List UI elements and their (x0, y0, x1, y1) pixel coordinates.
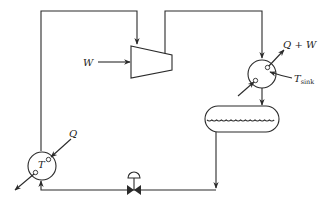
heat-in-arrow (51, 139, 71, 157)
refrigeration-cycle-diagram: W Q + W Tsink Q T (0, 0, 326, 204)
valve-body-left (127, 185, 134, 195)
coolant-in-port (253, 78, 257, 82)
compressor: W (83, 46, 172, 78)
expansion-valve (127, 172, 141, 195)
heat-out-port (265, 65, 269, 69)
heat-in-port (46, 157, 50, 161)
heat-out-arrow (267, 50, 284, 68)
valve-body-right (134, 185, 141, 195)
sink-temp-label: Tsink (294, 73, 314, 86)
heat-sink-out-arrow (15, 174, 34, 190)
evaporator: Q T (15, 128, 77, 190)
suction-line (41, 11, 137, 151)
drum-body (205, 106, 279, 132)
discharge-line (165, 11, 262, 58)
receiver-drum (205, 106, 279, 132)
work-label: W (83, 57, 94, 68)
heat-out-label: Q + W (283, 39, 317, 50)
valve-actuator (128, 172, 140, 178)
condenser: Q + W Tsink (238, 39, 317, 96)
piping (41, 11, 262, 190)
coolant-in-arrow (238, 82, 254, 96)
compressor-body (131, 46, 172, 78)
heat-in-label: Q (69, 128, 77, 139)
